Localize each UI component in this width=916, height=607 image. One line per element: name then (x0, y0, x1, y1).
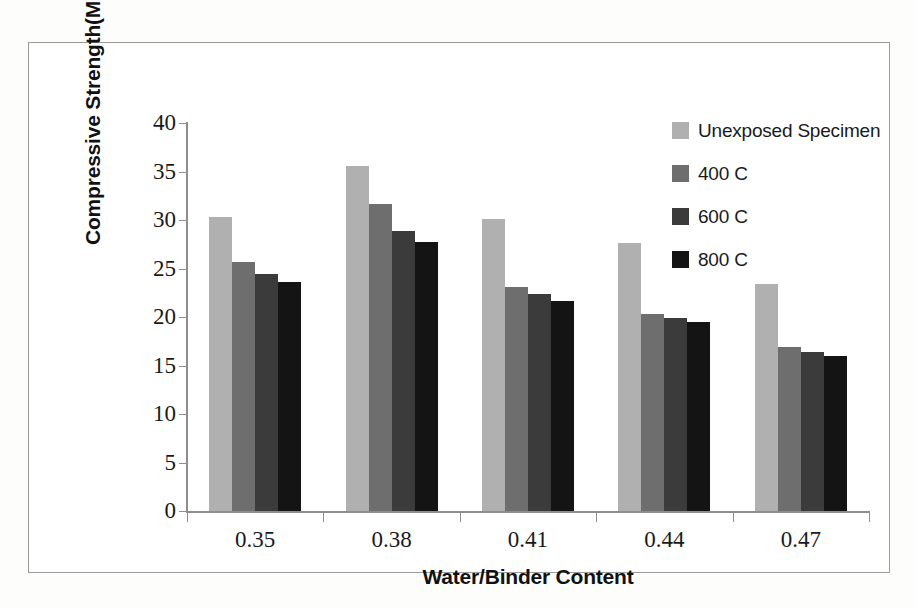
legend-swatch-icon (672, 165, 689, 182)
bar (415, 242, 438, 511)
y-tick-label: 25 (153, 256, 176, 282)
legend-label: 400 C (698, 163, 748, 185)
legend: Unexposed Specimen400 C600 C800 C (672, 109, 902, 281)
x-tick-mark (596, 513, 597, 522)
bar (618, 243, 641, 511)
x-axis-line (186, 511, 870, 513)
bar (278, 282, 301, 511)
legend-swatch-icon (672, 208, 689, 225)
bar (641, 314, 664, 511)
bar (369, 204, 392, 511)
legend-item[interactable]: 600 C (672, 195, 902, 238)
x-tick-label: 0.41 (460, 527, 596, 553)
y-axis-title: Compressive Strength(Mpa) (81, 0, 105, 245)
y-tick-mark (179, 511, 187, 512)
figure-frame: 0510152025303540 0.350.380.410.440.47 Co… (28, 42, 890, 573)
y-tick-label: 40 (153, 110, 176, 136)
legend-label: Unexposed Specimen (698, 120, 880, 142)
y-tick-label: 10 (153, 401, 176, 427)
y-tick-label: 20 (153, 304, 176, 330)
y-tick-mark (179, 463, 187, 464)
y-tick-label: 5 (165, 450, 177, 476)
x-tick-mark (187, 513, 188, 522)
y-tick-mark (179, 123, 187, 124)
bar (392, 231, 415, 511)
y-tick-mark (179, 220, 187, 221)
bar (505, 287, 528, 511)
y-axis-title-holder: Compressive Strength(Mpa) (87, 127, 117, 507)
x-tick-label: 0.35 (187, 527, 323, 553)
bar (801, 352, 824, 511)
bar-group (187, 123, 323, 511)
legend-item[interactable]: 400 C (672, 152, 902, 195)
bar (687, 322, 710, 511)
bar (209, 217, 232, 511)
legend-item[interactable]: Unexposed Specimen (672, 109, 902, 152)
x-tick-mark (733, 513, 734, 522)
legend-swatch-icon (672, 122, 689, 139)
bar-group (323, 123, 459, 511)
bar (664, 318, 687, 511)
y-tick-label: 0 (165, 498, 177, 524)
bar (824, 356, 847, 511)
scanned-page-background: 0510152025303540 0.350.380.410.440.47 Co… (0, 0, 916, 607)
y-tick-mark (179, 317, 187, 318)
x-tick-mark (323, 513, 324, 522)
legend-label: 600 C (698, 206, 748, 228)
x-tick-label: 0.44 (596, 527, 732, 553)
x-axis-title: Water/Binder Content (187, 565, 869, 589)
y-tick-label: 15 (153, 353, 176, 379)
bar (232, 262, 255, 511)
bar (551, 301, 574, 511)
bar-group (460, 123, 596, 511)
y-tick-mark (179, 172, 187, 173)
bar (482, 219, 505, 511)
y-tick-mark (179, 414, 187, 415)
bar (255, 274, 278, 511)
y-tick-label: 30 (153, 207, 176, 233)
y-tick-mark (179, 269, 187, 270)
legend-swatch-icon (672, 251, 689, 268)
legend-label: 800 C (698, 249, 748, 271)
bar (778, 347, 801, 511)
legend-item[interactable]: 800 C (672, 238, 902, 281)
x-tick-mark (869, 513, 870, 522)
x-tick-mark (460, 513, 461, 522)
x-tick-label: 0.38 (323, 527, 459, 553)
y-tick-mark (179, 366, 187, 367)
x-tick-label: 0.47 (733, 527, 869, 553)
bar (346, 166, 369, 511)
y-tick-label: 35 (153, 159, 176, 185)
bar (528, 294, 551, 511)
bar (755, 284, 778, 511)
